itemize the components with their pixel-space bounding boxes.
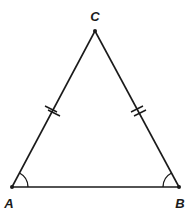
vertex-label-b: B: [175, 196, 184, 211]
angle-arc-b: [163, 173, 172, 187]
vertex-dot-a: [10, 185, 14, 189]
side-ac: [12, 31, 95, 187]
isosceles-triangle-diagram: A B C: [0, 0, 196, 217]
vertex-label-a: A: [3, 196, 13, 211]
angle-arc-a: [20, 173, 29, 187]
vertex-dot-b: [177, 185, 181, 189]
vertex-label-c: C: [90, 9, 100, 24]
vertex-dot-c: [93, 29, 97, 33]
